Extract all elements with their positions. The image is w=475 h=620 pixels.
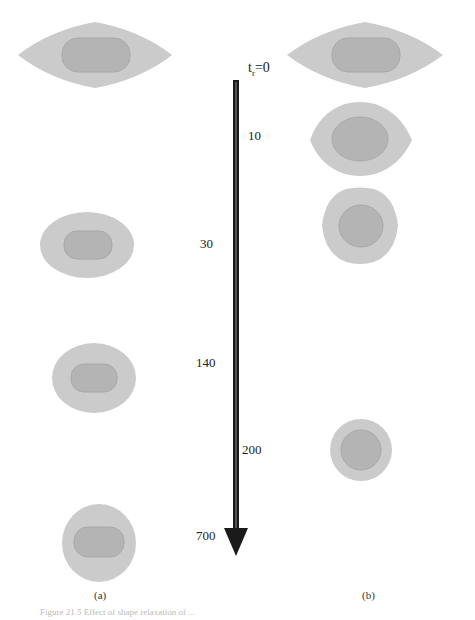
panel-b-t10: [310, 102, 412, 176]
panel-a-t700: [62, 504, 136, 582]
time-label-start: tr=0: [248, 60, 270, 78]
figure: tr=0 10 30 140 200 700 (a) (b) Figure 21…: [0, 0, 475, 620]
time-label-30: 30: [200, 236, 213, 252]
time-label-200: 200: [242, 442, 262, 458]
time-arrow: [224, 80, 248, 556]
panel-a-t140: [52, 343, 136, 413]
figure-caption: Figure 21.5 Effect of shape relaxation o…: [40, 607, 460, 617]
time-label-10: 10: [248, 128, 261, 144]
panel-label-b: (b): [362, 589, 375, 601]
time-label-140: 140: [196, 355, 216, 371]
figure-drawing: [0, 0, 475, 620]
panel-b-t0: [287, 22, 443, 88]
time-label-700: 700: [196, 528, 216, 544]
panel-b-t200: [330, 419, 392, 481]
panel-a-t30: [40, 212, 134, 278]
panel-a-t0: [18, 22, 172, 88]
panel-label-a: (a): [94, 589, 106, 601]
panel-b-t30: [322, 188, 398, 265]
